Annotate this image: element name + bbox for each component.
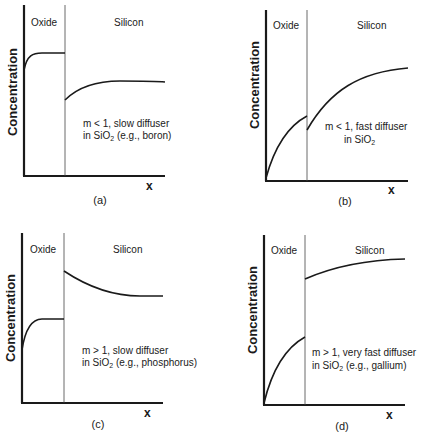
y-axis-label: Concentration <box>5 48 20 136</box>
oxide-concentration-curve <box>22 319 64 350</box>
annotation-line-1: m < 1, slow diffuser <box>83 118 170 129</box>
panel-a: Oxide Silicon Concentration x (a) m < 1,… <box>5 5 171 206</box>
y-axis-label: Concentration <box>3 274 18 362</box>
silicon-concentration-curve <box>64 271 163 296</box>
region-label-silicon: Silicon <box>355 245 384 256</box>
x-axis-label: x <box>146 179 153 193</box>
oxide-concentration-curve <box>24 53 65 70</box>
region-label-oxide: Oxide <box>31 17 58 28</box>
panel-caption: (d) <box>335 420 348 432</box>
panel-c: Oxide Silicon Concentration x (c) m > 1,… <box>3 233 197 430</box>
oxide-concentration-curve <box>264 337 305 403</box>
panel-d: Oxide Silicon Concentration x (d) m > 1,… <box>245 235 417 432</box>
silicon-concentration-curve <box>65 81 165 100</box>
region-label-silicon: Silicon <box>114 17 143 28</box>
region-label-silicon: Silicon <box>113 244 142 255</box>
x-axis-label: x <box>386 408 393 422</box>
silicon-concentration-curve <box>305 259 405 279</box>
x-axis-label: x <box>388 183 395 197</box>
region-label-oxide: Oxide <box>271 245 298 256</box>
region-label-oxide: Oxide <box>273 20 300 31</box>
annotation-line-1: m > 1, very fast diffuser <box>312 347 417 358</box>
diffusion-figure: Oxide Silicon Concentration x (a) m < 1,… <box>0 0 431 434</box>
annotation-line-2: in SiO2 (e.g., gallium) <box>312 360 407 372</box>
annotation-line-2: in SiO2 (e.g., boron) <box>83 130 171 142</box>
annotation-line-2: in SiO2 (e.g., phosphorus) <box>82 357 197 369</box>
y-axis-label: Concentration <box>247 41 262 129</box>
panel-caption: (a) <box>93 194 106 206</box>
region-label-silicon: Silicon <box>357 20 386 31</box>
panel-b: Oxide Silicon Concentration x (b) m < 1,… <box>247 10 408 207</box>
panel-caption: (c) <box>92 418 105 430</box>
annotation-line-2: in SiO2 <box>344 134 375 146</box>
annotation-line-1: m > 1, slow diffuser <box>82 345 169 356</box>
panel-caption: (b) <box>338 195 351 207</box>
annotation-line-1: m < 1, fast diffuser <box>325 121 408 132</box>
x-axis-label: x <box>144 406 151 420</box>
oxide-concentration-curve <box>266 116 307 178</box>
y-axis-label: Concentration <box>245 266 260 354</box>
region-label-oxide: Oxide <box>30 244 57 255</box>
